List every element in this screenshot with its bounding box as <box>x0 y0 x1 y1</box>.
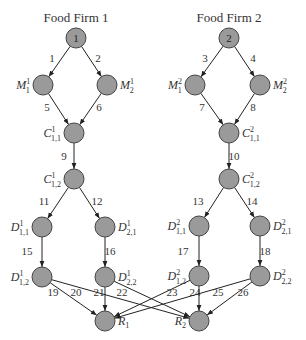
node-circle <box>33 75 53 95</box>
node-r2: R2 <box>174 311 209 331</box>
edge-label-20: 20 <box>71 286 83 298</box>
node-c122: C21,2 <box>219 169 260 189</box>
node-label: C21,2 <box>242 171 260 189</box>
node-label: D11,1 <box>10 219 29 237</box>
edge-label-17: 17 <box>178 245 190 257</box>
edge-label-26: 26 <box>238 286 250 298</box>
edge-label-5: 5 <box>44 101 50 113</box>
node-circle <box>189 266 209 286</box>
edge-label-7: 7 <box>199 101 205 113</box>
node-f2: 2 <box>219 28 239 48</box>
node-d211: D12,1 <box>95 217 136 237</box>
node-number: 2 <box>226 32 232 44</box>
node-d212: D22,1 <box>250 216 291 236</box>
node-label: M11 <box>15 77 30 95</box>
node-circle <box>219 169 239 189</box>
supply-chain-network-diagram: 1234567891011121314151617181920212223242… <box>0 0 306 340</box>
node-circle <box>64 169 84 189</box>
node-label: D11,2 <box>10 269 29 287</box>
node-circle <box>185 75 205 95</box>
node-d221: D12,2 <box>95 267 136 287</box>
node-number: 1 <box>73 32 79 44</box>
edge-label-8: 8 <box>250 101 256 113</box>
edge-label-23: 23 <box>167 286 179 298</box>
node-label: D22,2 <box>272 268 291 286</box>
title-food-firm-2: Food Firm 2 <box>196 10 261 25</box>
node-label: M21 <box>167 77 182 95</box>
edge-label-14: 14 <box>247 195 259 207</box>
node-d112: D21,1 <box>167 216 209 236</box>
edge-11 <box>48 187 69 218</box>
edge-5 <box>48 93 68 124</box>
edge-label-10: 10 <box>229 150 241 162</box>
node-circle <box>250 266 270 286</box>
node-r1: R1 <box>95 311 129 331</box>
node-label: C21,1 <box>242 125 260 143</box>
edge-13 <box>204 187 223 217</box>
node-circle <box>250 75 270 95</box>
node-d111: D11,1 <box>10 217 52 237</box>
titles-layer: Food Firm 1 Food Firm 2 <box>43 10 261 25</box>
edge-label-13: 13 <box>193 195 205 207</box>
node-circle <box>95 311 115 331</box>
node-label: D22,1 <box>272 218 291 236</box>
edge-label-21: 21 <box>94 286 105 298</box>
edge-label-2: 2 <box>95 52 101 64</box>
node-c112: C21,1 <box>219 123 260 143</box>
node-f1: 1 <box>66 28 86 48</box>
edge-label-16: 16 <box>105 245 117 257</box>
node-circle <box>97 75 117 95</box>
node-label: M12 <box>119 77 134 95</box>
node-m21: M12 <box>97 75 134 95</box>
node-m11: M11 <box>15 75 53 95</box>
node-label: D12,1 <box>117 219 136 237</box>
node-m12: M21 <box>167 75 205 95</box>
node-c111: C11,1 <box>43 123 84 143</box>
edge-label-1: 1 <box>49 52 55 64</box>
edge-label-22: 22 <box>117 286 128 298</box>
edge-label-3: 3 <box>202 52 208 64</box>
node-label: D21,1 <box>167 218 186 236</box>
edge-label-11: 11 <box>39 195 50 207</box>
node-circle <box>32 217 52 237</box>
node-circle <box>219 123 239 143</box>
node-label: D21,2 <box>167 268 186 286</box>
node-d121: D11,2 <box>10 267 52 287</box>
node-circle <box>95 267 115 287</box>
title-food-firm-1: Food Firm 1 <box>43 10 108 25</box>
edge-label-19: 19 <box>48 286 60 298</box>
node-label: M22 <box>272 77 287 95</box>
node-circle <box>32 267 52 287</box>
node-c121: C11,2 <box>43 169 84 189</box>
node-circle <box>189 311 209 331</box>
node-d222: D22,2 <box>250 266 291 286</box>
edge-label-9: 9 <box>61 150 67 162</box>
node-d122: D21,2 <box>167 266 209 286</box>
edge-label-12: 12 <box>92 195 103 207</box>
edge-label-18: 18 <box>260 245 272 257</box>
edge-label-6: 6 <box>96 101 102 113</box>
edge-label-25: 25 <box>213 286 225 298</box>
edge-label-15: 15 <box>22 245 34 257</box>
node-label: C11,2 <box>43 171 61 189</box>
edge-label-4: 4 <box>250 52 256 64</box>
node-circle <box>95 217 115 237</box>
node-m22: M22 <box>250 75 287 95</box>
node-circle <box>250 216 270 236</box>
node-label: C11,1 <box>43 125 61 143</box>
node-circle <box>189 216 209 236</box>
node-circle <box>64 123 84 143</box>
node-label: R1 <box>117 314 129 330</box>
